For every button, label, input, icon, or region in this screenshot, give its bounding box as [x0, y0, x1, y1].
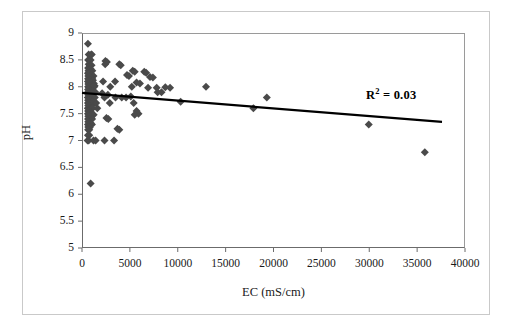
- y-axis-title: pH: [19, 125, 34, 140]
- y-tick-label: 9: [38, 26, 74, 38]
- r-squared-annotation: R2 = 0.03: [366, 88, 416, 103]
- x-tick-label: 40000: [435, 257, 495, 269]
- x-axis-title: EC (mS/cm): [82, 285, 465, 300]
- y-tick-label: 6.5: [38, 160, 74, 172]
- y-tick-label: 5.5: [38, 214, 74, 226]
- plot-area: [82, 33, 465, 248]
- r2-prefix: R: [366, 88, 375, 102]
- y-tick-label: 6: [38, 187, 74, 199]
- y-tick-label: 7.5: [38, 107, 74, 119]
- figure-container: 55.566.577.588.59 0500010000150002000025…: [0, 0, 513, 331]
- y-tick-label: 8.5: [38, 53, 74, 65]
- y-tick-label: 7: [38, 134, 74, 146]
- y-tick-label: 5: [38, 241, 74, 253]
- y-tick-label: 8: [38, 80, 74, 92]
- r2-value: = 0.03: [380, 88, 417, 102]
